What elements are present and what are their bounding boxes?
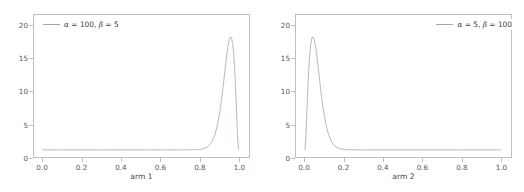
alpha-value: = 5,	[462, 20, 482, 29]
x-tick-mark	[422, 158, 423, 162]
beta-value: = 100	[487, 20, 512, 29]
y-tick-mark	[29, 158, 33, 159]
y-tick-mark	[29, 58, 33, 59]
x-tick-mark	[304, 158, 305, 162]
x-tick-mark	[344, 158, 345, 162]
y-tick-mark	[29, 25, 33, 26]
y-tick-label: 15	[281, 54, 290, 63]
y-axis-ticks-arm-1: 0 5 10 15 20	[0, 14, 28, 158]
x-tick-label: 1.0	[234, 163, 245, 172]
x-tick-label: 0.2	[76, 163, 87, 172]
x-tick-mark	[200, 158, 201, 162]
x-tick-label: 0.0	[36, 163, 47, 172]
x-tick-mark	[383, 158, 384, 162]
x-tick-mark	[82, 158, 83, 162]
curve-svg-arm-2	[296, 15, 511, 157]
y-tick-label: 0	[23, 154, 28, 163]
y-tick-label: 20	[281, 20, 290, 29]
y-tick-label: 10	[19, 87, 28, 96]
curve-svg-arm-1	[34, 15, 249, 157]
x-axis-label-arm-2: arm 2	[295, 172, 512, 181]
x-axis-label-arm-1: arm 1	[33, 172, 250, 181]
legend-arm-1: α = 100, β = 5	[39, 19, 123, 30]
legend-arm-2: α = 5, β = 100	[432, 19, 516, 30]
legend-line-swatch-icon	[43, 24, 60, 25]
x-tick-label: 0.8	[194, 163, 205, 172]
y-tick-label: 5	[23, 120, 28, 129]
y-tick-mark	[291, 125, 295, 126]
x-tick-label: 0.0	[298, 163, 309, 172]
x-tick-mark	[160, 158, 161, 162]
x-tick-label: 0.4	[377, 163, 388, 172]
y-tick-mark	[291, 58, 295, 59]
y-tick-label: 15	[19, 54, 28, 63]
y-tick-mark	[29, 91, 33, 92]
subplot-arm-1: 0 5 10 15 20 α = 100, β = 5 0.0	[0, 0, 262, 192]
x-tick-label: 0.6	[155, 163, 166, 172]
x-tick-label: 0.6	[417, 163, 428, 172]
subplot-arm-2: 0 5 10 15 20 α = 5, β = 100 0.0	[262, 0, 524, 192]
x-tick-label: 0.4	[115, 163, 126, 172]
legend-label-arm-1: α = 100, β = 5	[64, 20, 119, 29]
y-tick-label: 10	[281, 87, 290, 96]
y-axis-ticks-arm-2: 0 5 10 15 20	[262, 14, 290, 158]
figure-container: 0 5 10 15 20 α = 100, β = 5 0.0	[0, 0, 524, 192]
x-tick-mark	[462, 158, 463, 162]
legend-line-swatch-icon	[436, 24, 453, 25]
beta-pdf-curve-arm-2	[305, 37, 501, 150]
y-tick-mark	[291, 91, 295, 92]
y-tick-mark	[29, 125, 33, 126]
x-tick-mark	[121, 158, 122, 162]
beta-value: = 5	[103, 20, 119, 29]
alpha-value: = 100,	[69, 20, 99, 29]
y-tick-mark	[291, 158, 295, 159]
x-tick-mark	[42, 158, 43, 162]
x-tick-label: 1.0	[496, 163, 507, 172]
legend-label-arm-2: α = 5, β = 100	[457, 20, 512, 29]
x-tick-label: 0.8	[456, 163, 467, 172]
plot-area-arm-1	[33, 14, 250, 158]
plot-area-arm-2	[295, 14, 512, 158]
y-tick-mark	[291, 25, 295, 26]
x-tick-label: 0.2	[338, 163, 349, 172]
beta-pdf-curve-arm-1	[43, 37, 239, 150]
x-tick-mark	[239, 158, 240, 162]
y-tick-label: 0	[285, 154, 290, 163]
y-tick-label: 5	[285, 120, 290, 129]
x-tick-mark	[501, 158, 502, 162]
y-tick-label: 20	[19, 20, 28, 29]
